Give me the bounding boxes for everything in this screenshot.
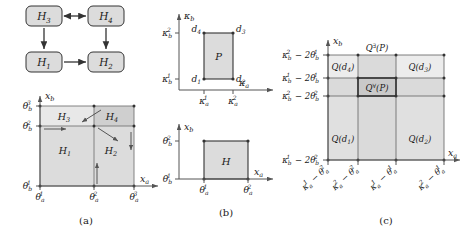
panel-b-bottom-ytick-1: θb1 — [163, 172, 172, 186]
region-P-label: P — [214, 51, 222, 62]
panel-a-ytick-1: θb1 — [23, 179, 32, 193]
panel-b-top-xtick-1: κa1 — [198, 94, 209, 108]
cell-Qd1-bg — [328, 96, 358, 160]
label-exists-P: Q∃(P) — [366, 42, 389, 54]
corner-d3-label: d3 — [236, 24, 246, 35]
panel-c: Q(d4) Q(d3) Q(d1) Q(d2) Q∀(P) Q∃(P) — [262, 0, 469, 233]
panel-a: H3 H4 H1 H2 — [0, 0, 168, 233]
panel-c-ytick-2: κb2 − 2θb2 — [281, 90, 319, 103]
corner-d4-label: d4 — [191, 24, 201, 35]
panel-c-plot: Q(d4) Q(d3) Q(d1) Q(d2) Q∀(P) Q∃(P) — [281, 35, 460, 194]
panel-b-top: P d4 d3 d1 d2 κb κ — [161, 10, 273, 107]
panel-b-bottom: H xb xa θa1 θa2 θb1 θb2 — [163, 121, 273, 196]
panel-b-caption: (b) — [219, 207, 233, 218]
panel-c-xtick-labels: κa1 − θa2 κa2 − θa2 κa1 − θa1 κa2 − θa1 — [298, 163, 447, 194]
panel-b-top-xtick-2: κa2 — [227, 94, 238, 108]
band-exists-vertical — [358, 55, 396, 160]
panel-c-ytick-3: κb1 − 2θb1 — [281, 72, 319, 85]
panel-c-ytick-4: κb2 − 2θb1 — [281, 49, 319, 62]
panel-a-caption: (a) — [79, 215, 93, 226]
panel-c-xtick-4: κa2 − θa1 — [414, 163, 447, 194]
panel-a-xtick-3: θa3 — [130, 190, 139, 204]
panel-c-svg: Q(d4) Q(d3) Q(d1) Q(d2) Q∀(P) Q∃(P) — [262, 0, 469, 233]
panel-c-y-axis-label: xb — [333, 35, 343, 48]
panel-b-top-ytick-1: κb1 — [161, 72, 172, 86]
panel-a-xtick-2: θa2 — [90, 190, 99, 204]
panel-c-ytick-1: κb1 − 2θb2 — [281, 154, 319, 167]
panel-c-xtick-1: κa1 − θa2 — [298, 163, 331, 194]
panel-a-x-axis-label: xa — [140, 173, 149, 186]
panel-b-bottom-ytick-2: θb2 — [163, 134, 172, 148]
panel-c-xtick-3: κa1 − θa1 — [366, 163, 399, 194]
panel-b-top-y-axis-label: κb — [183, 10, 194, 23]
panel-a-xtick-1: θa1 — [36, 190, 45, 204]
corner-d1-label: d1 — [191, 74, 201, 85]
panel-a-ytick-2: θb2 — [23, 119, 32, 133]
panel-b-bottom-xtick-2: θa2 — [244, 183, 253, 197]
panel-a-svg: H3 H4 H1 H2 — [0, 0, 168, 233]
panel-c-caption: (c) — [379, 215, 393, 226]
region-H-label: H — [221, 156, 231, 167]
cell-Qd3-label: Q(d3) — [409, 62, 432, 73]
cell-Qd2-label: Q(d2) — [409, 134, 432, 145]
panel-a-dag: H3 H4 H1 H2 — [26, 6, 124, 72]
panel-b-top-ytick-2: κb2 — [161, 26, 172, 40]
cell-Qd4-label: Q(d4) — [332, 62, 355, 73]
figure-root: H3 H4 H1 H2 — [0, 0, 469, 233]
cell-Qd1-label: Q(d1) — [332, 134, 355, 145]
panel-b-bottom-xtick-1: θa1 — [200, 183, 209, 197]
panel-a-y-axis-label: xb — [45, 90, 55, 103]
panel-b-top-x-axis-label: κa — [238, 77, 249, 90]
panel-c-xtick-2: κa2 − θa2 — [328, 163, 361, 194]
cell-forall-P-label: Q∀(P) — [366, 82, 389, 94]
panel-b-bottom-y-axis-label: xb — [184, 121, 194, 134]
panel-a-ytick-3: θb3 — [23, 99, 32, 113]
panel-a-plot: H1 H2 H3 H4 — [23, 90, 158, 203]
panel-c-x-axis-label: xa — [448, 147, 457, 160]
cell-Qd2-bg — [396, 96, 444, 160]
